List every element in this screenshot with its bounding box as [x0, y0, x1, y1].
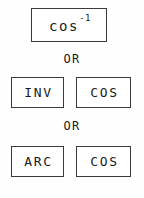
key-label-superscript: -1	[79, 13, 91, 23]
key-label-arc: ARC	[24, 155, 52, 168]
key-label-cos-1: COS	[90, 86, 118, 99]
inverse-cosine-key-diagram: cos-1 OR INV COS OR ARC COS	[0, 0, 144, 198]
key-label-group: cos-1	[49, 18, 91, 33]
key-label-base: cos	[49, 17, 79, 33]
calculator-key-arc[interactable]: ARC	[11, 146, 64, 177]
separator-or-2: OR	[0, 120, 144, 132]
key-label-inv: INV	[24, 86, 52, 99]
separator-or-1: OR	[0, 53, 144, 65]
calculator-key-inv[interactable]: INV	[11, 77, 64, 108]
calculator-key-cos-2[interactable]: COS	[76, 146, 131, 177]
key-label-cos-2: COS	[90, 155, 118, 168]
calculator-key-cos-inverse[interactable]: cos-1	[31, 8, 107, 42]
calculator-key-cos-1[interactable]: COS	[76, 77, 131, 108]
